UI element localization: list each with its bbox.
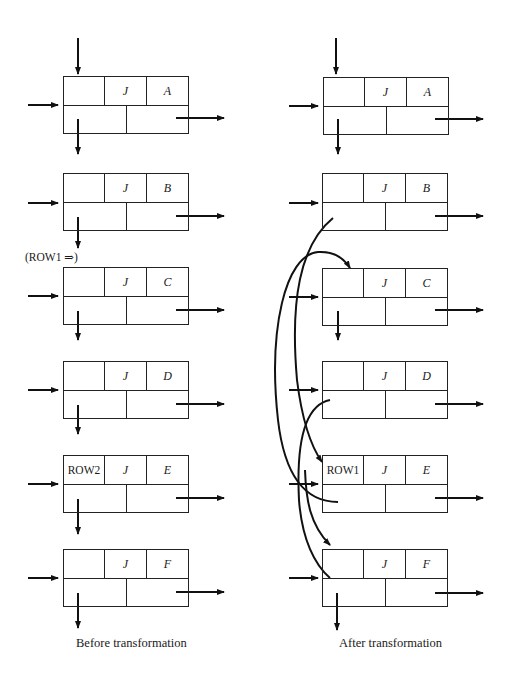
value-label: D	[406, 362, 447, 390]
value-label: B	[147, 174, 188, 202]
col-label: J	[365, 78, 407, 106]
row-label	[323, 269, 364, 297]
row-label	[64, 174, 105, 202]
col-label: J	[364, 550, 406, 578]
col-label: J	[364, 456, 406, 484]
node-right-E: ROW1JE	[322, 455, 448, 513]
node-right-B: JB	[322, 173, 448, 231]
node-right-A: JA	[323, 77, 449, 135]
row-label	[64, 550, 105, 578]
col-label: J	[105, 362, 147, 390]
col-label: J	[364, 269, 406, 297]
row-label: ROW1	[323, 456, 364, 484]
row-label: ROW2	[64, 456, 105, 484]
value-label: D	[147, 362, 188, 390]
value-label: B	[406, 174, 447, 202]
node-left-E: ROW2JE	[63, 455, 189, 513]
node-left-B: JB	[63, 173, 189, 231]
row-label	[64, 362, 105, 390]
col-label: J	[105, 174, 147, 202]
caption-after: After transformation	[339, 636, 442, 651]
value-label: C	[406, 269, 447, 297]
node-left-D: JD	[63, 361, 189, 419]
col-label: J	[364, 362, 406, 390]
node-right-F: JF	[322, 549, 448, 607]
value-label: F	[406, 550, 447, 578]
node-left-A: JA	[63, 76, 189, 134]
node-left-F: JF	[63, 549, 189, 607]
node-right-D: JD	[322, 361, 448, 419]
row-label	[64, 268, 105, 296]
row-label	[323, 550, 364, 578]
row-label	[324, 78, 365, 106]
row-label	[64, 77, 105, 105]
col-label: J	[105, 550, 147, 578]
value-label: E	[147, 456, 188, 484]
caption-before: Before transformation	[76, 636, 187, 651]
value-label: C	[147, 268, 188, 296]
col-label: J	[105, 77, 147, 105]
node-left-C: JC	[63, 267, 189, 325]
col-label: J	[105, 268, 147, 296]
node-right-C: JC	[322, 268, 448, 326]
col-label: J	[364, 174, 406, 202]
col-label: J	[105, 456, 147, 484]
relink-B-to-E	[295, 218, 333, 462]
value-label: A	[147, 77, 188, 105]
value-label: A	[407, 78, 448, 106]
row-label	[323, 174, 364, 202]
row-label	[323, 362, 364, 390]
value-label: E	[406, 456, 447, 484]
row1-annotation: (ROW1 ⇒)	[25, 250, 78, 264]
value-label: F	[147, 550, 188, 578]
